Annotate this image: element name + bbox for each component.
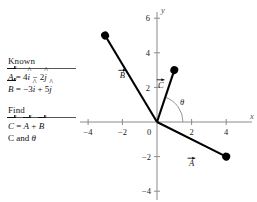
known-equation-a: A = 4i − 2j	[8, 71, 86, 83]
i-hat-a: i	[28, 71, 31, 83]
ytick-label-2: 2	[146, 83, 150, 93]
known-divider	[8, 68, 76, 69]
b-operator: +	[37, 84, 42, 94]
vector-b-symbol-rhs: B	[39, 120, 45, 132]
j-hat-b: j	[49, 83, 52, 95]
vector-addition-figure: Known A = 4i − 2j B = −3i + 5j Find C = …	[0, 0, 257, 202]
theta-symbol-text: θ	[32, 133, 36, 143]
ytick-label-neg4: −4	[142, 186, 152, 196]
xtick-label-2: 2	[189, 127, 193, 137]
axes	[80, 12, 252, 200]
plus-sign-c: +	[31, 121, 36, 131]
theta-label: θ	[180, 97, 184, 107]
vector-c-symbol: C	[8, 120, 14, 132]
b-i-coefficient: −3	[23, 84, 33, 94]
find-heading: Find	[8, 105, 86, 116]
equals-sign-b: =	[16, 84, 21, 94]
vector-b-symbol: B	[8, 83, 14, 95]
vector-a-label-text: A	[188, 158, 195, 168]
equals-sign-c: =	[16, 121, 21, 131]
xtick-label-4: 4	[224, 127, 229, 137]
vector-a-label: A	[188, 157, 196, 168]
xtick-label-neg4: −4	[84, 127, 94, 137]
equals-sign-a: =	[16, 72, 21, 82]
vector-b-label-text: B	[120, 70, 125, 80]
vector-b-label: B	[118, 69, 126, 80]
vector-a-symbol-rhs: A	[24, 120, 30, 132]
vector-c-line	[157, 70, 174, 122]
i-hat-b: i	[33, 83, 36, 95]
vector-a-symbol: A	[8, 71, 14, 83]
y-axis-label: y	[160, 5, 165, 15]
ytick-label-neg2: −2	[142, 152, 151, 162]
coordinate-plot: −4 −2 0 2 4 6 4 2 −2 −4 x y θ	[80, 0, 257, 202]
x-axis-label: x	[249, 111, 254, 121]
vector-c-label-text: C	[158, 80, 164, 90]
known-equation-b: B = −3i + 5j	[8, 83, 86, 95]
origin-label: 0	[147, 127, 151, 137]
find-targets: C and θ	[8, 132, 86, 144]
vector-c-label: C	[157, 78, 165, 89]
known-block: Known A = 4i − 2j B = −3i + 5j	[8, 56, 86, 95]
ytick-label-4: 4	[146, 48, 151, 58]
find-equation-c: C = A + B	[8, 120, 86, 132]
ytick-label-6: 6	[146, 13, 150, 23]
find-targets-text: C and	[8, 133, 32, 143]
j-hat-a: j	[44, 71, 47, 83]
xtick-label-neg2: −2	[118, 127, 127, 137]
find-block: Find C = A + B C and θ	[8, 105, 86, 144]
